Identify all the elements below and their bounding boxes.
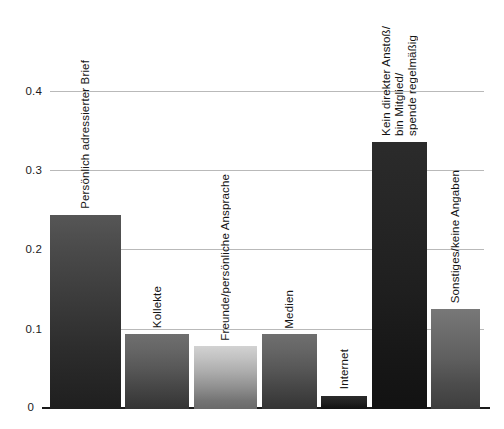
bar-category-label: Persönlich adressierter Brief [50, 60, 121, 209]
bar[interactable] [262, 334, 317, 409]
y-axis-tick-label: 0.4 [25, 85, 42, 97]
bar-slot: Kein direkter Anstoß/ bin Mitglied/ spen… [372, 60, 427, 409]
bar-slot: Freunde/persönliche Ansprache [194, 60, 258, 409]
y-axis-tick-label: 0.1 [25, 323, 42, 335]
y-axis-tick-label: 0.3 [25, 164, 42, 176]
bar-category-label: Kein direkter Anstoß/ bin Mitglied/ spen… [372, 26, 427, 136]
bar-category-label-text: Kein direkter Anstoß/ bin Mitglied/ spen… [380, 26, 419, 136]
y-axis-tick-label: 0 [27, 401, 34, 413]
bar-category-label-text: Sonstiges/keine Angaben [449, 170, 462, 303]
y-axis-tick-label: 0.2 [25, 243, 42, 255]
bar-category-label-text: Internet [338, 349, 351, 389]
bar-slot: Persönlich adressierter Brief [50, 60, 121, 409]
bar-category-label-text: Kollekte [151, 286, 164, 328]
bar-category-label: Medien [262, 290, 317, 329]
bar-slot: Sonstiges/keine Angaben [431, 60, 480, 409]
bar-category-label: Internet [321, 349, 367, 389]
bar-category-label-text: Persönlich adressierter Brief [79, 60, 92, 209]
bar-category-label-text: Medien [283, 290, 296, 329]
bar-slot: Internet [321, 60, 367, 409]
bar-slot: Kollekte [125, 60, 189, 409]
bar[interactable] [372, 142, 427, 409]
bar-group: Persönlich adressierter BriefKollekteFre… [50, 60, 480, 409]
bar[interactable] [125, 334, 189, 409]
bar[interactable] [194, 346, 258, 409]
bar-category-label: Sonstiges/keine Angaben [431, 170, 480, 303]
bar-category-label-text: Freunde/persönliche Ansprache [219, 174, 232, 341]
bar[interactable] [321, 396, 367, 409]
plot-area: 0.40.30.20.10 Persönlich adressierter Br… [50, 60, 480, 409]
bar-category-label: Kollekte [125, 286, 189, 328]
bar-category-label: Freunde/persönliche Ansprache [194, 174, 258, 341]
bar-slot: Medien [262, 60, 317, 409]
bar[interactable] [50, 215, 121, 409]
bar[interactable] [431, 309, 480, 409]
bar-chart: 0.40.30.20.10 Persönlich adressierter Br… [0, 0, 504, 429]
